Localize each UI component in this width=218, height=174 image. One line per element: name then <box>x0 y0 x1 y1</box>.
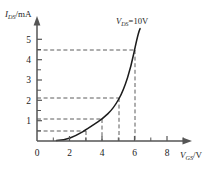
chart-figure: 1 2 3 4 5 0 2 4 6 8 IDS/mA VGS/V VDS=10V <box>0 0 218 174</box>
y-tick-label-3: 3 <box>26 75 31 85</box>
y-axis-title-unit: /mA <box>16 9 33 19</box>
x-tick-label-0: 0 <box>35 148 40 158</box>
vds-annotation-label: VDS=10V <box>116 16 149 27</box>
y-tick-label-4: 4 <box>26 55 31 65</box>
vds-annotation-value: =10V <box>129 16 149 26</box>
x-tick-label-2: 2 <box>67 148 72 158</box>
chart-background <box>0 0 218 174</box>
x-axis-title-subscript: GS <box>186 154 194 161</box>
y-tick-label-1: 1 <box>26 116 31 126</box>
x-axis-title-unit: /V <box>193 150 203 160</box>
y-tick-label-5: 5 <box>26 35 31 45</box>
x-tick-label-8: 8 <box>165 148 170 158</box>
x-tick-label-4: 4 <box>100 148 105 158</box>
vds-annotation-subscript: DS <box>120 21 128 27</box>
y-tick-label-2: 2 <box>26 96 31 106</box>
transfer-characteristic-chart: 1 2 3 4 5 0 2 4 6 8 IDS/mA VGS/V VDS=10V <box>0 0 218 174</box>
y-axis-title-subscript: DS <box>7 13 16 20</box>
x-tick-label-6: 6 <box>132 148 137 158</box>
